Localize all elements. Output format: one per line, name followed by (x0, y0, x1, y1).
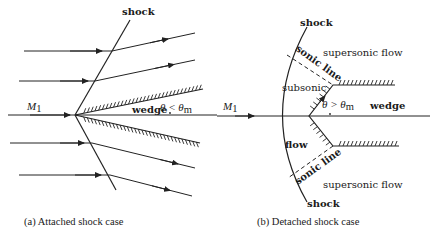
caption-a: (a) Attached shock case (24, 216, 124, 228)
supersonic-flow-label-bottom: supersonic flow (323, 179, 403, 190)
wedge-lower-surface (75, 115, 200, 143)
shock-diagram: shock M1 wedge θ < θm (a) Attached shock… (0, 0, 434, 237)
panel-attached-shock: shock M1 wedge θ < θm (a) Attached shock… (8, 6, 217, 228)
panel-detached-shock: shock shock sonic line sonic line supers… (217, 17, 430, 228)
subsonic-label: subsonic (282, 82, 327, 93)
streamline-upper-2 (19, 60, 195, 81)
shock-label: shock (122, 6, 156, 17)
flow-label: flow (285, 139, 308, 150)
mach-label: M1 (26, 100, 41, 114)
mach-label-b: M1 (222, 100, 237, 114)
streamline-upper-1 (24, 33, 195, 51)
shock-label-top: shock (300, 17, 334, 28)
angle-marker-dot-b (329, 113, 331, 115)
oblique-shock-lower (75, 115, 116, 190)
wedge-label-b: wedge (369, 100, 405, 111)
supersonic-flow-label-top: supersonic flow (323, 47, 403, 58)
angle-condition-label-b: θ > θm (322, 98, 354, 112)
angle-marker-dot (169, 112, 171, 114)
oblique-shock-upper (75, 20, 130, 115)
angle-condition-label: θ < θm (160, 101, 192, 115)
shock-label-bottom: shock (307, 198, 341, 209)
streamline-lower-2 (19, 175, 192, 196)
caption-b: (b) Detached shock case (257, 216, 360, 228)
